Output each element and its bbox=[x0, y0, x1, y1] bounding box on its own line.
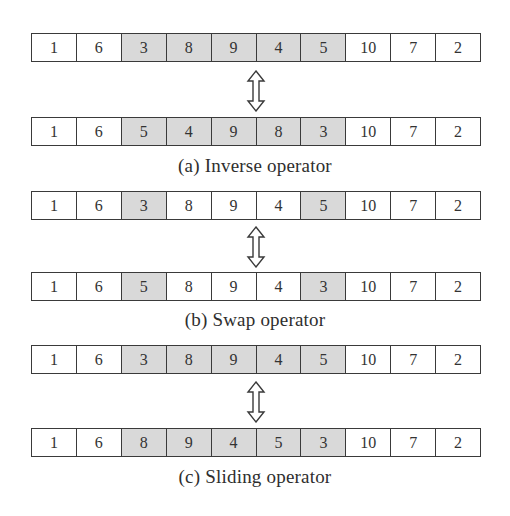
sequence-cell: 4 bbox=[167, 118, 212, 145]
sequence-cell: 6 bbox=[77, 192, 122, 219]
sequence-cell: 5 bbox=[122, 273, 167, 300]
sequence-cell: 3 bbox=[122, 192, 167, 219]
panel-b-after-row: 16589431072 bbox=[31, 272, 481, 301]
sequence-cell: 2 bbox=[436, 429, 480, 456]
sequence-cell: 6 bbox=[77, 429, 122, 456]
sequence-cell: 8 bbox=[167, 346, 212, 373]
sequence-cell: 2 bbox=[436, 273, 480, 300]
sequence-cell: 9 bbox=[212, 118, 257, 145]
panel-c-before-row: 16389451072 bbox=[31, 345, 481, 374]
panel-a-after-row: 16549831072 bbox=[31, 117, 481, 146]
sequence-cell: 8 bbox=[167, 273, 212, 300]
sequence-cell: 3 bbox=[122, 34, 167, 61]
sequence-cell: 6 bbox=[77, 34, 122, 61]
sequence-cell: 4 bbox=[257, 273, 302, 300]
sequence-cell: 2 bbox=[436, 34, 480, 61]
sequence-cell: 1 bbox=[32, 346, 77, 373]
caption-inverse-operator: (a) Inverse operator bbox=[0, 155, 510, 177]
sequence-cell: 9 bbox=[167, 429, 212, 456]
sequence-cell: 8 bbox=[257, 118, 302, 145]
sequence-cell: 6 bbox=[77, 346, 122, 373]
sequence-cell: 1 bbox=[32, 118, 77, 145]
sequence-cell: 9 bbox=[212, 34, 257, 61]
sequence-cell: 8 bbox=[167, 34, 212, 61]
sequence-cell: 3 bbox=[122, 346, 167, 373]
sequence-cell: 1 bbox=[32, 192, 77, 219]
sequence-cell: 1 bbox=[32, 34, 77, 61]
sequence-cell: 4 bbox=[257, 192, 302, 219]
sequence-cell: 2 bbox=[436, 192, 480, 219]
sequence-cell: 1 bbox=[32, 429, 77, 456]
sequence-cell: 4 bbox=[257, 34, 302, 61]
sequence-cell: 7 bbox=[391, 273, 436, 300]
sequence-cell: 6 bbox=[77, 273, 122, 300]
sequence-cell: 7 bbox=[391, 192, 436, 219]
caption-swap-operator: (b) Swap operator bbox=[0, 309, 510, 331]
double-vertical-arrow-icon bbox=[246, 70, 266, 112]
double-vertical-arrow-icon bbox=[246, 381, 266, 423]
sequence-cell: 5 bbox=[122, 118, 167, 145]
sequence-cell: 8 bbox=[122, 429, 167, 456]
sequence-cell: 10 bbox=[346, 429, 391, 456]
sequence-cell: 10 bbox=[346, 346, 391, 373]
sequence-cell: 2 bbox=[436, 118, 480, 145]
sequence-cell: 7 bbox=[391, 346, 436, 373]
sequence-cell: 1 bbox=[32, 273, 77, 300]
sequence-cell: 9 bbox=[212, 346, 257, 373]
sequence-cell: 5 bbox=[301, 192, 346, 219]
panel-a-before-row: 16389451072 bbox=[31, 33, 481, 62]
panel-b-before-row: 16389451072 bbox=[31, 191, 481, 220]
sequence-cell: 7 bbox=[391, 429, 436, 456]
sequence-cell: 5 bbox=[257, 429, 302, 456]
sequence-cell: 7 bbox=[391, 118, 436, 145]
sequence-cell: 4 bbox=[257, 346, 302, 373]
sequence-cell: 10 bbox=[346, 273, 391, 300]
sequence-cell: 5 bbox=[301, 346, 346, 373]
sequence-cell: 4 bbox=[212, 429, 257, 456]
sequence-cell: 10 bbox=[346, 192, 391, 219]
sequence-cell: 2 bbox=[436, 346, 480, 373]
caption-sliding-operator: (c) Sliding operator bbox=[0, 466, 510, 488]
sequence-cell: 7 bbox=[391, 34, 436, 61]
panel-c-after-row: 16894531072 bbox=[31, 428, 481, 457]
double-vertical-arrow-icon bbox=[246, 226, 266, 268]
sequence-cell: 3 bbox=[301, 118, 346, 145]
sequence-cell: 3 bbox=[301, 429, 346, 456]
sequence-cell: 10 bbox=[346, 118, 391, 145]
sequence-cell: 9 bbox=[212, 192, 257, 219]
sequence-cell: 6 bbox=[77, 118, 122, 145]
sequence-cell: 8 bbox=[167, 192, 212, 219]
sequence-cell: 9 bbox=[212, 273, 257, 300]
sequence-cell: 10 bbox=[346, 34, 391, 61]
sequence-cell: 5 bbox=[301, 34, 346, 61]
sequence-cell: 3 bbox=[301, 273, 346, 300]
